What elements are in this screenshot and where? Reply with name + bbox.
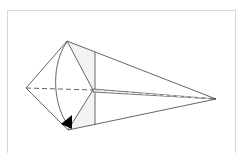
fold-arrow-curve bbox=[56, 42, 67, 122]
center-spike bbox=[93, 89, 216, 99]
kite-outline bbox=[26, 41, 216, 130]
valley-fold-line bbox=[26, 88, 93, 90]
fold-arrowhead-icon bbox=[61, 115, 72, 129]
origami-diagram bbox=[0, 0, 243, 153]
